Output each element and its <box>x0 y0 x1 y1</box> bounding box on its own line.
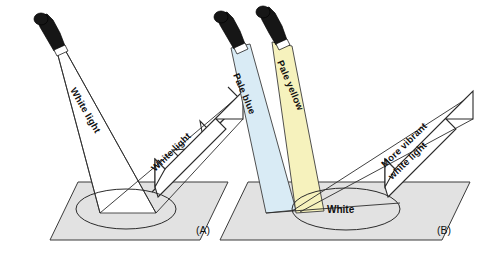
figure-root: White light White light (A) <box>0 0 487 262</box>
panel-a-lamp <box>34 13 68 56</box>
panel-b-caption: (B) <box>437 224 451 236</box>
panel-a: White light White light (A) <box>34 13 243 240</box>
light-reflection-diagram: White light White light (A) <box>0 0 487 262</box>
panel-a-reflected-arrow-shape <box>155 91 243 197</box>
panel-b-spot-label: White <box>327 204 355 215</box>
panel-b: Pale blue Pale yellow More vibrant white… <box>214 6 473 240</box>
panel-a-caption: (A) <box>196 224 210 236</box>
panel-a-incident-beam <box>56 48 156 213</box>
